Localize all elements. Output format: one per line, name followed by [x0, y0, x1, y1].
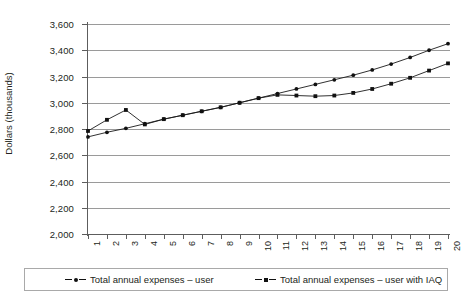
data-point-circle — [370, 68, 374, 72]
square-marker-icon — [255, 278, 276, 282]
data-point-square — [313, 94, 317, 98]
series-line-1 — [88, 44, 448, 137]
data-point-circle — [332, 78, 336, 82]
data-point-square — [257, 96, 261, 100]
data-point-square — [351, 91, 355, 95]
data-point-square — [238, 101, 242, 105]
legend-label-user: Total annual expenses – user — [90, 274, 214, 285]
legend-item-user-with-iaq[interactable]: Total annual expenses – user with IAQ — [255, 269, 442, 290]
data-point-square — [200, 109, 204, 113]
data-point-square — [143, 123, 147, 127]
circle-marker-icon — [65, 278, 86, 282]
data-point-circle — [295, 87, 299, 91]
legend-item-user[interactable]: Total annual expenses – user — [65, 269, 214, 290]
data-point-circle — [105, 130, 109, 134]
data-point-circle — [86, 135, 90, 139]
data-point-square — [446, 61, 450, 65]
data-point-circle — [351, 73, 355, 77]
line-chart: Dollars (thousands) 2,0002,2002,4002,600… — [0, 0, 474, 297]
data-point-square — [86, 129, 90, 133]
data-point-circle — [427, 48, 431, 52]
data-point-square — [219, 105, 223, 109]
data-point-circle — [313, 82, 317, 86]
data-point-square — [181, 113, 185, 117]
data-point-square — [389, 82, 393, 86]
data-point-circle — [124, 126, 128, 130]
series-line-2 — [88, 63, 448, 131]
data-point-square — [332, 94, 336, 98]
series-layer — [0, 0, 474, 297]
data-point-square — [427, 69, 431, 73]
chart-legend: Total annual expenses – user Total annua… — [24, 268, 448, 291]
data-point-circle — [446, 42, 450, 46]
data-point-square — [124, 108, 128, 112]
data-point-square — [295, 94, 299, 98]
data-point-square — [408, 76, 412, 80]
data-point-circle — [408, 56, 412, 60]
data-point-square — [162, 117, 166, 121]
data-point-square — [370, 87, 374, 91]
data-point-circle — [389, 62, 393, 66]
data-point-square — [105, 118, 109, 122]
legend-label-user-with-iaq: Total annual expenses – user with IAQ — [280, 274, 442, 285]
data-point-square — [276, 93, 280, 97]
